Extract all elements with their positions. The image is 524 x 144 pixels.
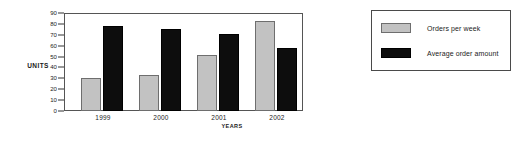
- legend-label: Orders per week: [427, 25, 480, 32]
- y-tick-label: 90: [50, 10, 57, 16]
- y-tick-label: 30: [50, 75, 57, 81]
- y-tick-mark: [58, 13, 64, 14]
- y-tick-mark: [58, 45, 64, 46]
- y-tick-label: 20: [50, 86, 57, 92]
- bar-orders-per-week-2002[interactable]: [255, 21, 275, 111]
- plot-wrapper: 90 80 70 60 50 40 30 20: [64, 13, 303, 111]
- y-tick-label: 80: [50, 21, 57, 27]
- bar-group-2002: [255, 13, 303, 111]
- bar-orders-per-week-1999[interactable]: [81, 78, 101, 111]
- bar-average-order-amount-1999[interactable]: [103, 26, 123, 111]
- y-tick-label: 10: [50, 97, 57, 103]
- y-tick-mark: [58, 67, 64, 68]
- bar-average-order-amount-2002[interactable]: [277, 48, 297, 111]
- x-tick-label-2000: 2000: [153, 114, 168, 121]
- bar-orders-per-week-2001[interactable]: [197, 55, 217, 111]
- y-tick-label: 50: [50, 54, 57, 60]
- legend-item-orders-per-week[interactable]: Orders per week: [381, 22, 480, 34]
- x-tick-label-1999: 1999: [95, 114, 110, 121]
- y-tick-mark: [58, 23, 64, 24]
- y-tick-label: 60: [50, 43, 57, 49]
- y-tick-label: 0: [54, 108, 57, 114]
- bar-chart-figure: UNITS 90 80 70 60 50 40 30: [0, 0, 524, 144]
- y-tick-mark: [58, 111, 64, 112]
- y-tick-mark: [58, 100, 64, 101]
- x-axis-title: YEARS: [222, 123, 243, 129]
- bar-group-2000: [139, 13, 187, 111]
- legend-item-average-order-amount[interactable]: Average order amount: [381, 47, 499, 59]
- bar-group-1999: [81, 13, 129, 111]
- bar-average-order-amount-2001[interactable]: [219, 34, 239, 111]
- bar-group-2001: [197, 13, 245, 111]
- y-tick-mark: [58, 78, 64, 79]
- x-tick-label-2002: 2002: [269, 114, 284, 121]
- y-tick-mark: [58, 56, 64, 57]
- y-tick-label: 40: [50, 64, 57, 70]
- y-tick-label: 70: [50, 32, 57, 38]
- bar-average-order-amount-2000[interactable]: [161, 29, 181, 111]
- gray-swatch-icon: [381, 23, 411, 33]
- black-swatch-icon: [381, 48, 411, 58]
- y-tick-mark: [58, 89, 64, 90]
- legend-label: Average order amount: [427, 50, 499, 57]
- y-tick-mark: [58, 34, 64, 35]
- bar-orders-per-week-2000[interactable]: [139, 75, 159, 111]
- chart-legend: Orders per week Average order amount: [371, 10, 511, 71]
- x-tick-label-2001: 2001: [211, 114, 226, 121]
